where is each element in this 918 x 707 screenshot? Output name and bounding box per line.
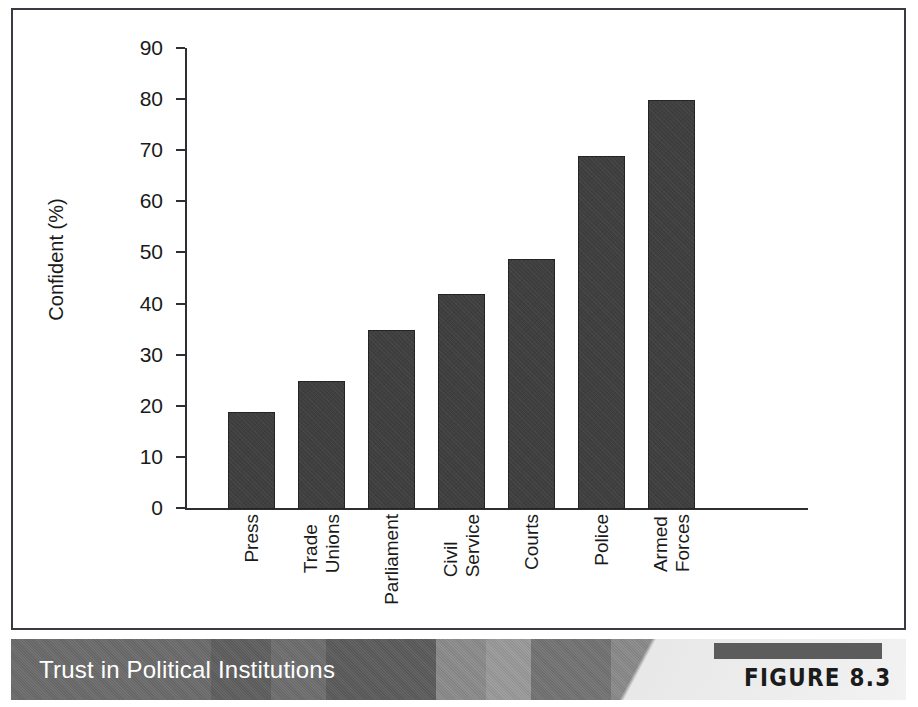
figure-number-label: FIGURE 8.3 — [744, 663, 892, 692]
bar-slot — [578, 49, 625, 509]
bar — [648, 100, 695, 509]
y-axis-tick-label: 20 — [117, 395, 163, 416]
figure-caption-title: Trust in Political Institutions — [39, 656, 335, 684]
bar — [508, 259, 555, 509]
bar — [228, 412, 275, 509]
bar-slot — [648, 49, 695, 509]
y-axis-tick-label: 0 — [117, 497, 163, 518]
category-label-line: Press — [241, 514, 262, 563]
figure-caption-bar: Trust in Political Institutions FIGURE 8… — [11, 639, 906, 700]
y-axis-tick — [176, 149, 185, 151]
bar-slot — [228, 49, 275, 509]
y-axis-ticks: 0102030405060708090 — [13, 10, 185, 632]
y-axis-tick-label: 10 — [117, 446, 163, 467]
bar-slot — [368, 49, 415, 509]
bar-series — [187, 48, 808, 509]
category-label-rotated: Parliament — [381, 514, 403, 605]
y-axis-tick — [176, 456, 185, 458]
y-axis-tick — [176, 303, 185, 305]
bar — [578, 156, 625, 509]
figure-frame: Confident (%) 0102030405060708090 PressT… — [11, 8, 906, 630]
chart-plot-area: Confident (%) 0102030405060708090 PressT… — [13, 10, 908, 632]
category-label-rotated: Courts — [521, 514, 543, 570]
y-axis-tick — [176, 507, 185, 509]
category-label: TradeUnions — [298, 514, 345, 636]
bar-slot — [438, 49, 485, 509]
category-label: Press — [228, 514, 275, 636]
category-label: CivilService — [438, 514, 485, 636]
bar — [368, 330, 415, 509]
y-axis-tick — [176, 200, 185, 202]
y-axis-tick-label: 60 — [117, 190, 163, 211]
category-label-line: Armed — [650, 516, 671, 572]
category-label-rotated: CivilService — [440, 514, 484, 577]
y-axis-tick — [176, 98, 185, 100]
category-label-rotated: TradeUnions — [300, 514, 344, 573]
category-label: Courts — [508, 514, 555, 636]
caption-band — [326, 639, 436, 700]
category-label-line: Courts — [521, 514, 542, 570]
x-axis-category-labels: PressTradeUnionsParliamentCivilServiceCo… — [187, 514, 808, 639]
bar-slot — [508, 49, 555, 509]
y-axis-tick-label: 50 — [117, 241, 163, 262]
bar — [298, 381, 345, 509]
category-label-line: Civil — [440, 541, 461, 577]
y-axis-tick-label: 40 — [117, 293, 163, 314]
y-axis-tick — [176, 405, 185, 407]
bar-slot — [298, 49, 345, 509]
y-axis-tick-label: 70 — [117, 139, 163, 160]
y-axis-tick-label: 30 — [117, 344, 163, 365]
category-label-rotated: ArmedForces — [650, 514, 694, 572]
category-label-line: Service — [462, 514, 484, 577]
category-label-line: Police — [591, 514, 612, 566]
category-label-line: Forces — [672, 514, 694, 572]
category-label-rotated: Police — [591, 514, 613, 566]
category-label: Parliament — [368, 514, 415, 636]
category-label: ArmedForces — [648, 514, 695, 636]
category-label-line: Trade — [300, 524, 321, 573]
category-label: Police — [578, 514, 625, 636]
category-label-line: Unions — [322, 514, 344, 573]
category-label-rotated: Press — [241, 514, 263, 563]
y-axis-tick — [176, 251, 185, 253]
y-axis-tick — [176, 354, 185, 356]
y-axis-tick — [176, 47, 185, 49]
figure-tag-block — [714, 643, 882, 659]
y-axis-tick-label: 90 — [117, 37, 163, 58]
bar — [438, 294, 485, 509]
y-axis-tick-label: 80 — [117, 88, 163, 109]
category-label-line: Parliament — [381, 514, 402, 605]
